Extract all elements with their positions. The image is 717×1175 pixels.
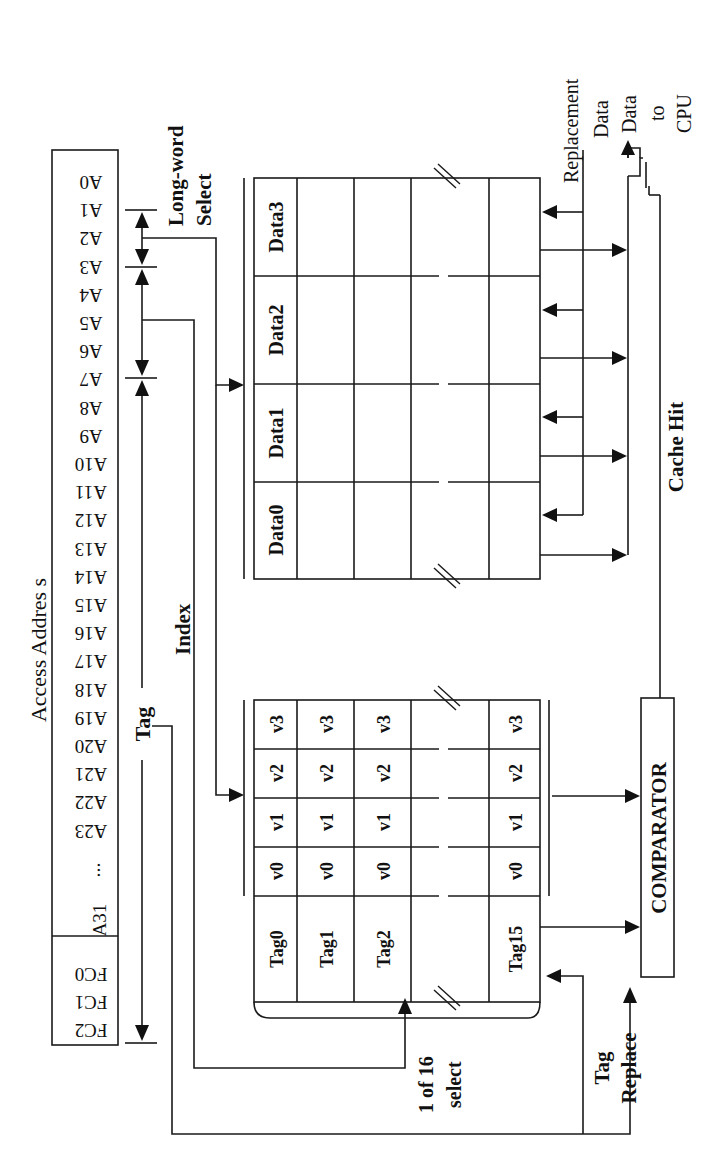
data-array: Data0Data1Data2Data3 — [244, 164, 627, 588]
valid-bit-v1: v1 — [374, 813, 394, 831]
valid-bit-v1: v1 — [267, 813, 287, 831]
address-bit-a2: A2 — [79, 228, 102, 249]
address-bit-a12: A12 — [75, 510, 108, 531]
valid-bit-v2: v2 — [506, 764, 526, 782]
arrowhead — [546, 969, 561, 983]
read-arrowhead — [612, 351, 627, 365]
address-bit-a8: A8 — [79, 398, 102, 419]
tag-entry-tag15: Tag15 — [506, 926, 526, 972]
address-bit-a4: A4 — [79, 285, 103, 306]
break-mark — [434, 164, 460, 188]
index-to-tag-array-wire — [216, 385, 232, 795]
data-word-header-data2: Data2 — [265, 304, 287, 355]
address-bit-a17: A17 — [75, 651, 108, 672]
valid-bit-v0: v0 — [506, 862, 526, 880]
address-bit-a11: A11 — [75, 482, 107, 503]
data-to-cpu-label-line3: CPU — [673, 94, 695, 133]
comparator-label: COMPARATOR — [647, 761, 671, 913]
write-arrowhead — [542, 303, 557, 317]
tag-entry-tag0: Tag0 — [267, 930, 287, 967]
function-code-fc0: FC0 — [75, 964, 108, 985]
arrowhead — [625, 789, 640, 803]
address-bit-a16: A16 — [75, 623, 108, 644]
arrowhead — [623, 987, 637, 1003]
address-bit-a1: A1 — [79, 200, 102, 221]
arrowhead — [398, 998, 412, 1014]
function-code-fc1: FC1 — [75, 992, 108, 1013]
valid-bit-v0: v0 — [374, 862, 394, 880]
valid-bit-v1: v1 — [506, 813, 526, 831]
address-bit-a20: A20 — [75, 736, 108, 757]
tag-entry-tag2: Tag2 — [374, 930, 394, 967]
read-arrowhead — [612, 548, 627, 562]
data-word-header-data0: Data0 — [265, 504, 287, 555]
arrowhead — [135, 1025, 149, 1041]
long-word-select-wire — [142, 238, 232, 385]
valid-bit-v2: v2 — [267, 764, 287, 782]
arrowhead — [229, 788, 244, 802]
tag-replace-label-line1: Tag — [590, 1051, 614, 1085]
data-to-cpu-label-line1: Data — [618, 95, 640, 133]
routing-wires — [142, 150, 660, 1134]
arrowhead — [135, 360, 149, 376]
address-bit-a14: A14 — [74, 567, 107, 588]
write-arrowhead — [542, 508, 557, 522]
cache-hit-label: Cache Hit — [664, 402, 688, 492]
address-bit-a23: A23 — [75, 821, 108, 842]
long-word-select-label-line1: Long-word — [164, 125, 188, 226]
field-brackets: Tag Long-word Select Index — [125, 125, 216, 1043]
row-select-brace — [254, 1002, 540, 1018]
tag-entry-tag1: Tag1 — [317, 930, 337, 967]
address-register: A0A1A2A3A4A5A6A7A8A9A10A11A12A13A14A15A1… — [26, 150, 118, 1045]
address-bit-a13: A13 — [75, 539, 108, 560]
arrowhead — [135, 269, 149, 285]
address-bit-a7: A7 — [79, 369, 102, 390]
function-code-fc2: FC2 — [75, 1020, 108, 1041]
address-bit-a22: A22 — [75, 792, 108, 813]
address-register-label: Access Addres s — [26, 578, 51, 722]
break-mark — [434, 564, 460, 588]
address-bit-a15: A15 — [75, 595, 108, 616]
read-arrowhead — [612, 449, 627, 463]
valid-bit-v0: v0 — [317, 862, 337, 880]
address-bit-a10: A10 — [75, 454, 108, 475]
arrowhead — [135, 212, 149, 228]
valid-bit-v3: v3 — [506, 715, 526, 733]
arrowhead — [229, 378, 244, 392]
data-to-cpu-label-line2: to — [646, 105, 668, 121]
address-bit-a18: A18 — [75, 680, 108, 701]
valid-bit-v0: v0 — [267, 862, 287, 880]
address-ellipsis: ... — [82, 863, 104, 878]
comparator: COMPARATOR — [641, 698, 674, 977]
tag-replace-wire — [560, 976, 583, 1134]
valid-bit-v2: v2 — [317, 764, 337, 782]
row-select-label-line2: select — [443, 1061, 465, 1108]
valid-bit-v2: v2 — [374, 764, 394, 782]
arrowhead — [135, 380, 149, 396]
read-arrowhead — [612, 243, 627, 257]
break-mark — [434, 986, 460, 1010]
arrowhead — [625, 920, 640, 934]
cache-organization-diagram: A0A1A2A3A4A5A6A7A8A9A10A11A12A13A14A15A1… — [0, 0, 717, 1175]
tag-to-comparator-wire — [152, 726, 630, 1134]
address-bit-a3: A3 — [79, 257, 102, 278]
valid-bit-v3: v3 — [374, 715, 394, 733]
data-word-header-data1: Data1 — [265, 407, 287, 458]
tag-field-label: Tag — [130, 707, 155, 742]
address-bit-a31: A31 — [89, 904, 110, 937]
address-bit-a9: A9 — [79, 426, 102, 447]
replacement-data-label-line1: Replacement — [560, 78, 583, 183]
address-bit-a5: A5 — [79, 313, 102, 334]
buffer-input — [628, 158, 643, 176]
arrowhead — [135, 249, 149, 265]
replacement-data-label-line2: Data — [590, 100, 612, 138]
break-mark — [434, 686, 460, 710]
tag-replace-label-line2: Replace — [617, 1032, 641, 1103]
long-word-select-label-line2: Select — [192, 174, 216, 226]
address-bit-a0: A0 — [79, 172, 102, 193]
write-arrowhead — [542, 410, 557, 424]
write-arrowhead — [542, 205, 557, 219]
valid-bit-v3: v3 — [317, 715, 337, 733]
index-field-label: Index — [171, 603, 195, 655]
address-bit-a21: A21 — [75, 764, 108, 785]
